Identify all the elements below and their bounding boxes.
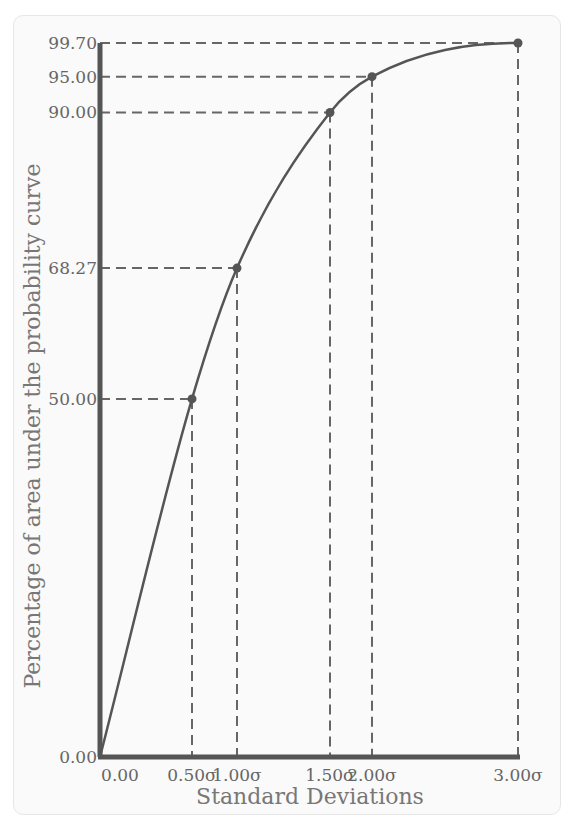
data-point [514,39,523,48]
guide-lines [100,43,518,757]
x-tick-label: 0.50σ [167,765,217,785]
data-point [326,108,335,117]
data-point [233,264,242,273]
y-tick-labels: 0.0050.0068.2790.0095.0099.70 [48,33,97,767]
axes [98,43,520,757]
y-axis-label: Percentage of area under the probability… [20,164,45,689]
y-tick-label: 50.00 [48,389,97,409]
x-tick-label: 0.00 [101,765,139,785]
y-tick-label: 95.00 [48,67,97,87]
y-tick-label: 68.27 [48,258,97,278]
curve-line [100,43,518,757]
x-axis-label: Standard Deviations [196,784,424,809]
x-tick-labels: 0.000.50σ1.00σ1.50σ2.00σ3.00σ [101,765,543,785]
data-point [368,72,377,81]
x-tick-label: 1.00σ [212,765,262,785]
data-point [188,394,197,403]
cumulative-area-chart: 0.0050.0068.2790.0095.0099.70 0.000.50σ1… [0,0,570,828]
x-tick-label: 2.00σ [347,765,397,785]
y-tick-label: 90.00 [48,102,97,122]
y-tick-label: 0.00 [59,747,97,767]
y-tick-label: 99.70 [48,33,97,53]
x-tick-label: 3.00σ [493,765,543,785]
